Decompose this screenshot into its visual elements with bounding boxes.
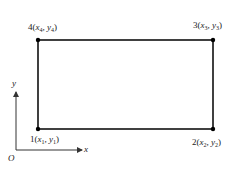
element-rectangle [38, 40, 213, 129]
node-3-label: 3(x3, y3) [193, 20, 222, 31]
node-1-dot [36, 127, 40, 131]
node-1-label: 1(x1, y1) [30, 134, 59, 145]
node-4-dot [36, 38, 40, 42]
node-3-dot [211, 38, 215, 42]
node-2-dot [211, 127, 215, 131]
node-4-label: 4(x4, y4) [28, 22, 57, 33]
y-axis-label: y [11, 78, 16, 88]
origin-label: O [8, 153, 15, 163]
x-axis-label: x [83, 144, 88, 154]
element-diagram: 4(x4, y4) 3(x3, y3) 1(x1, y1) 2(x2, y2) … [0, 0, 232, 170]
node-2-label: 2(x2, y2) [192, 137, 221, 148]
